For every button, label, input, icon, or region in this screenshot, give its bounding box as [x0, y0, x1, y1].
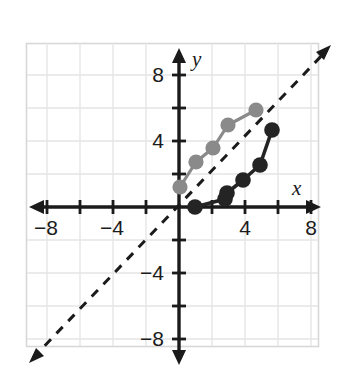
- x-tick-label-neg4: −4: [100, 216, 124, 239]
- y-tick-label-neg4: −4: [140, 261, 164, 284]
- y-tick-label-neg8: −8: [140, 327, 164, 350]
- dark-data-point: [264, 122, 280, 138]
- dark-data-point: [187, 199, 203, 215]
- x-tick-label-pos8: 8: [305, 216, 317, 239]
- dark-data-point: [235, 172, 251, 188]
- y-tick-label-pos4: 4: [152, 129, 164, 152]
- x-axis-label: x: [291, 176, 302, 200]
- y-axis-label: y: [190, 47, 202, 71]
- gray-data-point: [205, 140, 220, 155]
- gray-data-point: [172, 179, 187, 194]
- dark-data-point: [252, 157, 268, 173]
- plot-frame: [27, 44, 319, 347]
- x-tick-label-neg8: −8: [34, 216, 58, 239]
- x-tick-label-pos4: 4: [239, 216, 251, 239]
- y-tick-label-pos8: 8: [152, 63, 164, 86]
- graph-canvas: −8 −4 4 8 8 4 −4 −8 y x: [0, 0, 345, 390]
- dark-data-point: [219, 185, 235, 201]
- coordinate-plane-figure: −8 −4 4 8 8 4 −4 −8 y x: [0, 0, 345, 390]
- gray-data-point: [188, 154, 203, 169]
- gray-data-point: [248, 102, 263, 117]
- gray-data-point: [220, 117, 235, 132]
